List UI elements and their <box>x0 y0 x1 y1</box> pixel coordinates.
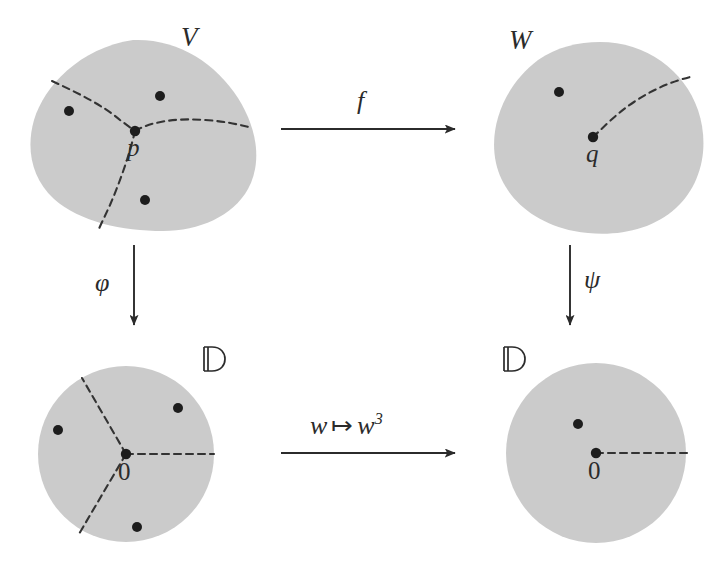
surface-w-interior-point <box>554 87 564 97</box>
disk-source-preimage-point-1 <box>53 425 63 435</box>
mapsto-icon: ↦ <box>327 411 357 440</box>
label-disk-target <box>500 344 526 381</box>
power-map-variable: w <box>310 411 327 440</box>
blackboard-d-icon <box>200 344 226 374</box>
label-origin-source: 0 <box>118 458 131 486</box>
label-arrow-f: f <box>357 86 364 116</box>
label-arrow-power-map: w↦w3 <box>310 410 383 441</box>
disk-source-preimage-point-3 <box>132 522 142 532</box>
node-disk-target <box>506 363 690 543</box>
label-surface-w: W <box>509 25 532 56</box>
label-arrow-phi: φ <box>95 268 109 298</box>
power-map-image-base: w <box>357 411 374 440</box>
label-point-p: p <box>127 134 140 162</box>
commutative-diagram: V p W q 0 0 f φ ψ w↦w3 <box>0 0 726 577</box>
node-disk-source <box>38 366 214 542</box>
surface-w-region <box>494 42 703 234</box>
label-origin-target: 0 <box>588 457 601 485</box>
disk-target-image-point <box>573 419 583 429</box>
label-arrow-psi: ψ <box>584 265 600 295</box>
disk-source-preimage-point-2 <box>173 403 183 413</box>
blackboard-d-icon <box>500 344 526 374</box>
label-point-q: q <box>586 140 599 168</box>
surface-v-preimage-point-3 <box>140 195 150 205</box>
surface-v-preimage-point-1 <box>64 106 74 116</box>
surface-v-preimage-point-2 <box>155 91 165 101</box>
label-surface-v: V <box>181 22 198 53</box>
label-disk-source <box>200 344 226 381</box>
node-surface-w <box>494 42 703 234</box>
node-surface-v <box>30 40 256 231</box>
power-map-exponent: 3 <box>375 410 383 427</box>
